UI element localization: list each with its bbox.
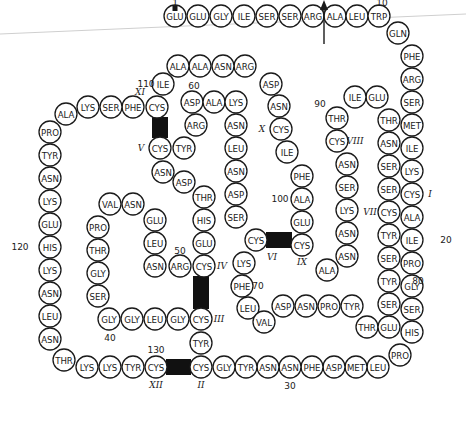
residue: SER	[100, 96, 122, 118]
residue: ASN	[144, 255, 166, 277]
residue: ASN	[225, 160, 247, 182]
residue-label: ALA	[319, 266, 336, 276]
residue: ILE	[401, 137, 423, 159]
residue-label: SER	[404, 305, 421, 315]
residue: CYS	[326, 130, 348, 152]
residue: TYR	[341, 295, 363, 317]
residue: PHE	[231, 275, 253, 297]
residue-label: LYS	[43, 266, 57, 276]
residue-label: ASP	[326, 363, 343, 373]
residue-label: SER	[381, 162, 398, 172]
residue-label: ALA	[404, 213, 421, 223]
residue: GLU	[193, 232, 215, 254]
residue-label: CYS	[404, 190, 421, 200]
residue-label: TYR	[124, 363, 141, 373]
residue-label: SER	[103, 103, 120, 113]
residue: LEU	[225, 137, 247, 159]
residue-label: LYS	[237, 259, 251, 269]
residue-label: ASN	[338, 160, 356, 170]
residue-label: CYS	[193, 363, 210, 373]
residue: GLY	[213, 356, 235, 378]
position-number: 80	[412, 276, 424, 286]
residue: PRO	[87, 216, 109, 238]
residue: TYR	[39, 144, 61, 166]
residue-label: ASN	[41, 289, 59, 299]
residue: GLY	[121, 308, 143, 330]
cysteine-roman-label: XI	[134, 87, 145, 97]
residue-label: THR	[88, 246, 107, 256]
residue-label: GLU	[166, 12, 183, 22]
residue: LEU	[144, 232, 166, 254]
residue: GLY	[210, 5, 232, 27]
residue: ASN	[225, 114, 247, 136]
disulfide-bridge	[266, 232, 292, 248]
residue: ASN	[39, 167, 61, 189]
residue: GLU	[291, 211, 313, 233]
residue: ASP	[173, 171, 195, 193]
residue-label: ASN	[338, 252, 356, 262]
residue: ALA	[203, 91, 225, 113]
residue: ASP	[181, 91, 203, 113]
residue-label: PRO	[41, 128, 59, 138]
residue-label: SER	[282, 12, 299, 22]
residue-label: LEU	[147, 239, 164, 249]
residue: PRO	[401, 252, 423, 274]
residue: ALA	[316, 259, 338, 281]
residue-label: GLY	[213, 12, 229, 22]
residue-label: GLU	[189, 12, 206, 22]
residue: ASN	[295, 295, 317, 317]
residue-label: VAL	[256, 318, 272, 328]
residue: CYS	[291, 234, 313, 256]
residue-label: PHE	[293, 172, 310, 182]
residue: CYS	[378, 201, 400, 223]
residue-label: GLU	[380, 323, 397, 333]
residue: GLY	[87, 262, 109, 284]
residue-label: ARG	[236, 62, 255, 72]
residue: ALA	[401, 206, 423, 228]
residue-label: LEU	[42, 312, 59, 322]
position-number: 30	[284, 381, 296, 391]
residue-label: LYS	[229, 98, 243, 108]
residue-label: CYS	[152, 144, 169, 154]
residue-label: ASP	[228, 190, 245, 200]
residue: SER	[256, 5, 278, 27]
cysteine-roman-label: V	[138, 143, 146, 153]
residue-label: ASN	[41, 335, 59, 345]
cysteine-roman-label: IV	[216, 261, 229, 271]
residue-label: ASN	[297, 302, 315, 312]
residue: LYS	[336, 199, 358, 221]
position-number: 120	[11, 242, 28, 252]
residue-label: GLN	[389, 29, 407, 39]
residue-label: HIS	[43, 243, 57, 253]
cysteine-roman-label: VI	[267, 252, 277, 262]
residue: CYS	[146, 96, 168, 118]
residue: TRP	[368, 5, 390, 27]
residue-label: CYS	[329, 137, 346, 147]
residue-label: GLY	[90, 269, 106, 279]
cysteine-roman-label: III	[213, 314, 225, 324]
residue: TYR	[190, 332, 212, 354]
position-number: 90	[314, 99, 326, 109]
residue: CYS	[193, 255, 215, 277]
residue-label: ASP	[263, 80, 280, 90]
residue-label: ARG	[171, 262, 190, 272]
residue: PHE	[291, 165, 313, 187]
residue-label: MET	[403, 121, 422, 131]
residue: SER	[401, 298, 423, 320]
residue: GLY	[167, 308, 189, 330]
residue: ASP	[260, 73, 282, 95]
residue: VAL	[99, 193, 121, 215]
residue-label: TYR	[343, 302, 360, 312]
residue-label: THR	[54, 356, 73, 366]
cysteine-roman-label: X	[258, 124, 266, 134]
residue-label: ARG	[304, 12, 323, 22]
residue-label: LEU	[349, 12, 366, 22]
residue: ASN	[39, 282, 61, 304]
residue: ARG	[401, 68, 423, 90]
residue-label: THR	[379, 116, 398, 126]
arrow-up-icon	[320, 0, 328, 10]
residue-label: ASP	[184, 98, 201, 108]
residue: ILE	[233, 5, 255, 27]
cysteine-roman-label: II	[196, 380, 205, 390]
residue-label: ALA	[206, 98, 223, 108]
